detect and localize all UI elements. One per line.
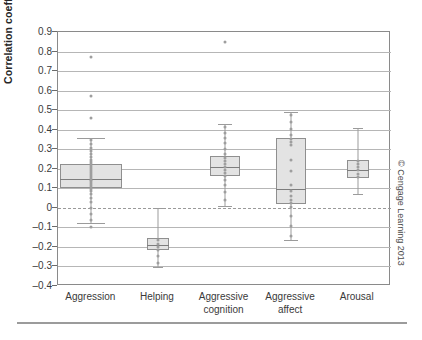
outlier-point [223,40,226,43]
y-axis-tickmark [52,265,57,266]
data-point [356,175,359,178]
data-point [290,225,293,228]
outlier-point [90,226,93,229]
y-axis-tickmark [52,207,57,208]
data-point [223,178,226,181]
data-point [223,184,226,187]
y-axis-tick-label: –0.2 [22,240,52,251]
figure-container: Correlation coefficient 0.90.80.70.60.50… [0,0,422,340]
y-axis-tick-label: 0.3 [22,143,52,154]
data-point [223,199,226,202]
data-point [223,142,226,145]
data-point [223,137,226,140]
y-axis-tickmark [52,148,57,149]
y-axis-tick-label: 0.7 [22,65,52,76]
y-axis-tickmark [52,226,57,227]
y-axis-tick-label: 0.1 [22,182,52,193]
whisker-cap-lower [77,223,105,224]
data-point [290,127,293,130]
y-axis-tick-label: 0.4 [22,123,52,134]
x-axis-tick-label: Aggression [65,291,115,304]
data-point [223,191,226,194]
whisker-cap-lower [284,240,298,241]
data-point [290,114,293,117]
y-axis-tick-label: 0.6 [22,84,52,95]
gridline [58,227,391,228]
zero-reference-line [58,208,391,209]
gridline [58,247,391,248]
data-point [290,235,293,238]
copyright-credit: © Cengage Learning 2013 [396,160,406,266]
data-point [90,197,93,200]
data-point [223,131,226,134]
x-axis-tick-label: Arousal [340,291,374,304]
y-axis-tick-label: 0.5 [22,104,52,115]
y-axis-tickmark [52,285,57,286]
y-axis-tickmark [52,168,57,169]
y-axis-tick-label: –0.3 [22,260,52,271]
bottom-divider-rule [17,322,407,324]
whisker-cap-lower [353,194,363,195]
whisker-cap-upper [153,208,163,209]
data-point [290,184,293,187]
data-point [90,143,93,146]
data-point [156,239,159,242]
data-point [356,168,359,171]
data-point [290,120,293,123]
gridline [58,52,391,53]
y-axis-tickmark [52,70,57,71]
data-point [90,218,93,221]
y-axis-tickmark [52,51,57,52]
data-point [290,133,293,136]
y-axis-tickmark [52,90,57,91]
data-point [223,148,226,151]
x-axis-tick-label: Aggressive cognition [199,291,248,316]
whisker-cap-upper [353,128,363,129]
data-point [90,139,93,142]
data-point [90,212,93,215]
y-axis-tick-label: 0.9 [22,26,52,37]
y-axis-tickmark [52,109,57,110]
gridline [58,91,391,92]
plot-area [57,31,390,285]
data-point [290,144,293,147]
x-axis-tick-label: Aggressive affect [265,291,314,316]
data-point [290,214,293,217]
y-axis-tick-labels: 0.90.80.70.60.50.40.30.20.10–0.1–0.2–0.3… [18,0,52,340]
y-axis-tick-label: 0 [22,201,52,212]
data-point [90,193,93,196]
y-axis-tick-label: –0.1 [22,221,52,232]
data-point [223,174,226,177]
outlier-point [90,95,93,98]
data-point [290,169,293,172]
gridline [58,110,391,111]
data-point [90,206,93,209]
y-axis-title: Correlation coefficient [2,0,14,84]
gridline [58,266,391,267]
data-point [290,195,293,198]
data-point [156,248,159,251]
data-point [156,254,159,257]
gridline [58,71,391,72]
outlier-point [90,56,93,59]
x-axis-tick-label: Helping [140,291,174,304]
data-point [223,153,226,156]
whisker-cap-lower [153,267,163,268]
y-axis-tick-label: 0.8 [22,45,52,56]
y-axis-tickmark [52,31,57,32]
data-point [223,125,226,128]
y-axis-tickmark [52,187,57,188]
data-point [290,205,293,208]
y-axis-tick-label: –0.4 [22,280,52,291]
data-point [156,261,159,264]
whisker-cap-lower [218,206,232,207]
data-point [290,190,293,193]
y-axis-tick-label: 0.2 [22,162,52,173]
data-point [290,201,293,204]
y-axis-tickmark [52,129,57,130]
data-point [290,158,293,161]
y-axis-tickmark [52,246,57,247]
outlier-point [90,116,93,119]
data-point [90,200,93,203]
